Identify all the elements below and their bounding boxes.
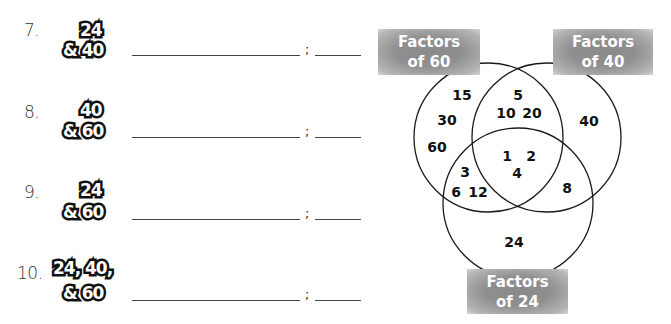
factor-value: 60 — [427, 139, 446, 155]
label-factors-60: Factors of 60 — [378, 29, 480, 75]
factor-value: 1 — [502, 148, 512, 164]
circle-factors-24 — [443, 128, 593, 278]
venn-diagram: Factors of 60 Factors of 40 Factors of 2… — [0, 0, 671, 324]
circle-factors-60 — [414, 63, 563, 212]
label-factors-40: Factors of 40 — [553, 29, 653, 75]
label-line1: Factors — [553, 32, 653, 52]
factor-value: 8 — [562, 180, 572, 196]
factor-value: 40 — [579, 113, 598, 129]
factor-value: 24 — [504, 234, 523, 250]
factor-value: 20 — [522, 105, 541, 121]
factor-value: 10 — [496, 105, 515, 121]
label-factors-24: Factors of 24 — [467, 269, 568, 314]
factor-value: 6 — [451, 184, 461, 200]
factor-value: 2 — [526, 148, 536, 164]
factor-value: 30 — [437, 112, 456, 128]
label-line1: Factors — [467, 272, 568, 292]
circle-factors-40 — [472, 63, 621, 212]
factor-value: 4 — [512, 165, 522, 181]
label-line1: Factors — [378, 32, 480, 52]
label-line2: of 60 — [378, 52, 480, 72]
factor-value: 5 — [513, 87, 523, 103]
label-line2: of 24 — [467, 292, 568, 312]
factor-value: 15 — [452, 87, 471, 103]
factor-value: 3 — [460, 164, 470, 180]
factor-value: 12 — [468, 184, 487, 200]
label-line2: of 40 — [553, 52, 653, 72]
